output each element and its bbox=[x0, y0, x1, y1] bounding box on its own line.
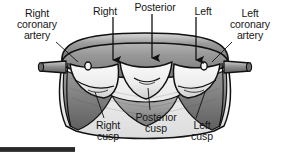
left-coronary-artery-stub bbox=[224, 61, 252, 73]
label-right-coronary-artery: Right coronary artery bbox=[6, 8, 68, 41]
label-left-cusp: Left cusp bbox=[185, 120, 219, 142]
label-line: cusp bbox=[145, 122, 167, 134]
right-coronary-artery-stub bbox=[38, 61, 66, 73]
right-coronary-ostium bbox=[85, 62, 91, 70]
label-posterior-cusp: Posterior cusp bbox=[130, 112, 182, 134]
label-left: Left bbox=[188, 6, 218, 17]
label-posterior: Posterior bbox=[126, 2, 184, 13]
label-right: Right bbox=[88, 6, 122, 17]
bottom-rule bbox=[0, 147, 75, 152]
left-coronary-ostium bbox=[201, 62, 207, 70]
label-line: cusp bbox=[191, 130, 213, 142]
label-right-cusp: Right cusp bbox=[89, 120, 127, 142]
label-line: cusp bbox=[97, 130, 119, 142]
label-left-coronary-artery: Left coronary artery bbox=[219, 8, 281, 41]
label-line: artery bbox=[237, 29, 263, 41]
label-line: artery bbox=[24, 29, 50, 41]
